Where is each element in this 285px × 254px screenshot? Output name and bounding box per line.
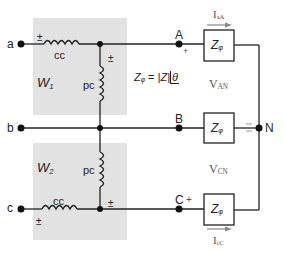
current-coil-1-label: cc [54, 50, 65, 61]
terminal-b-label: b [7, 122, 14, 134]
current-cC-label: IcC [213, 235, 224, 247]
impedance-c-label: Zφ [211, 203, 223, 216]
impedance-a-label: Zφ [211, 39, 223, 52]
potential-coil-1-label: pc [83, 80, 95, 91]
voltage-AN-label: VAN [209, 78, 228, 92]
terminal-c-node [18, 206, 25, 213]
node-C-label: C [175, 194, 184, 206]
potential-coil-2-label: pc [83, 165, 95, 176]
terminal-a-label: a [7, 38, 14, 50]
terminal-c-label: c [7, 202, 13, 214]
current-coil-2-label: cc [53, 196, 64, 207]
circuit-diagram: a b c ± cc ± pc W1 W2 pc cc ± ± Zφ = |Z|… [0, 0, 285, 254]
node-B-label: B [175, 113, 183, 125]
pc2-polarity-mark: ± [108, 199, 114, 209]
pc1-polarity-mark: ± [108, 54, 114, 64]
wattmeter-2-box [33, 143, 127, 240]
voltage-CN-label: VCN [209, 163, 228, 177]
node-N [256, 125, 263, 132]
cc1-polarity-mark: ± [37, 33, 43, 43]
terminal-b-node [18, 125, 25, 132]
junction-node [97, 206, 103, 212]
cc2-polarity-mark: ± [36, 217, 42, 227]
junction-node [97, 41, 103, 47]
junction-node [97, 125, 103, 131]
node-N-label: N [265, 122, 274, 134]
current-aA-label: IaA [213, 9, 224, 21]
wattmeter-1-label: W1 [37, 76, 54, 90]
terminal-a-node [18, 41, 25, 48]
wattmeter-1-box [33, 18, 127, 115]
node-A-polarity: + [183, 47, 188, 56]
node-C-polarity: + [186, 195, 192, 205]
node-A-label: A [175, 29, 183, 41]
impedance-equation: Zφ = |Z|θ [134, 72, 179, 84]
wattmeter-2-label: W2 [37, 161, 54, 175]
angle-symbol: θ [170, 71, 179, 84]
impedance-b-label: Zφ [211, 122, 223, 135]
